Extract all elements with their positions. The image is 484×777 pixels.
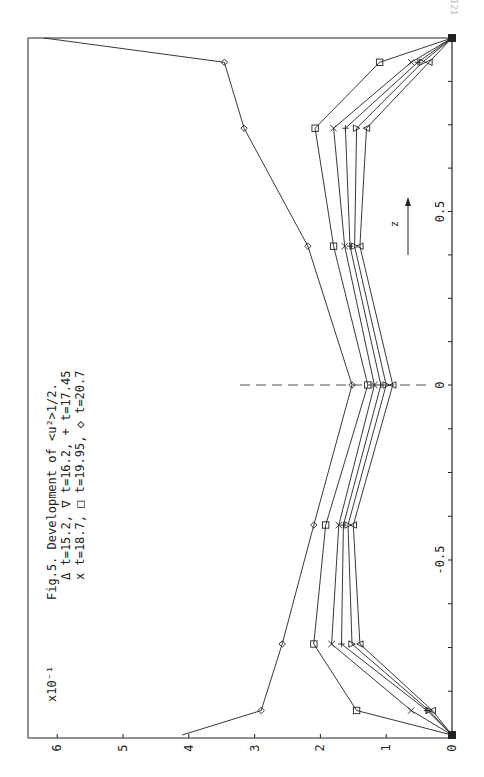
z-arrow-label: z [389,221,400,227]
legend-line-2: x t=18.7, □ t=19.95, ◇ t=20.7 [73,370,87,580]
z-tick-label: 0 [433,381,447,388]
value-tick-label: 0 [445,744,459,751]
figure-caption: x10⁻¹Fig.5. Development of <u²>1/2.Δ t=1… [45,370,87,702]
legend-line-1: Δ t=15.2, ∇ t=16.2, + t=17.45 [59,370,73,580]
chart: 0123456-0.500.5z x10⁻¹Fig.5. Development… [0,0,484,777]
series-lines [44,34,456,739]
scale-multiplier-label: x10⁻¹ [45,666,59,702]
z-tick-label: 0.5 [433,201,447,223]
value-tick-label: 3 [248,744,262,751]
value-tick-label: 2 [313,744,327,751]
value-tick-label: 1 [379,744,393,751]
value-tick-label: 5 [116,744,130,751]
axis-ticks [57,38,452,738]
series-t-20-7 [44,38,355,735]
z-tick-label: -0.5 [433,546,447,575]
axis-labels: 0123456-0.500.5z [50,197,459,752]
caption-title: Fig.5. Development of <u²>1/2. [45,383,59,600]
value-tick-label: 6 [50,744,64,751]
value-tick-label: 4 [182,744,196,751]
